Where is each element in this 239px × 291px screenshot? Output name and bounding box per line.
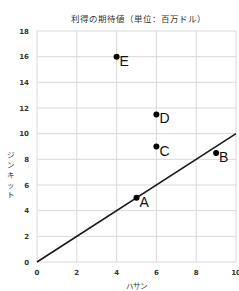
grid-lines	[37, 31, 236, 262]
x-axis-label: ハサン	[126, 282, 147, 291]
y-tick-label: 8	[24, 156, 29, 164]
y-tick-label: 10	[19, 130, 29, 138]
point-b: B	[213, 149, 228, 165]
x-tick-label: 6	[154, 269, 159, 277]
chart-title: 利得の期待値（単位：百万ドル）	[71, 14, 206, 24]
y-axis-label: ジンキット	[7, 151, 15, 200]
point-label: D	[159, 110, 169, 126]
point-e: E	[114, 53, 129, 69]
scatter-chart: 利得の期待値（単位：百万ドル） 024681012141618 0246810 …	[0, 0, 239, 291]
x-tick-label: 8	[194, 269, 199, 277]
y-tick-label: 6	[24, 182, 29, 190]
x-tick-label: 2	[74, 269, 79, 277]
y-tick-label: 14	[19, 79, 29, 87]
y-axis-ticks: 024681012141618	[19, 28, 29, 267]
x-tick-label: 0	[35, 269, 40, 277]
point-c: C	[153, 143, 169, 159]
point-a: A	[134, 194, 150, 210]
y-tick-label: 16	[19, 53, 29, 61]
point-label: B	[219, 149, 228, 165]
x-axis-ticks: 0246810	[35, 269, 239, 277]
y-tick-label: 2	[24, 233, 29, 241]
data-points: ABCDE	[114, 53, 229, 210]
point-label: C	[159, 143, 169, 159]
point-label: A	[140, 194, 150, 210]
y-tick-label: 12	[19, 105, 29, 113]
point-label: E	[120, 53, 129, 69]
x-tick-label: 10	[231, 269, 239, 277]
x-tick-label: 4	[114, 269, 119, 277]
point-d: D	[153, 110, 169, 126]
y-tick-label: 4	[24, 207, 29, 215]
y-tick-label: 18	[19, 28, 29, 36]
y-tick-label: 0	[24, 259, 29, 267]
